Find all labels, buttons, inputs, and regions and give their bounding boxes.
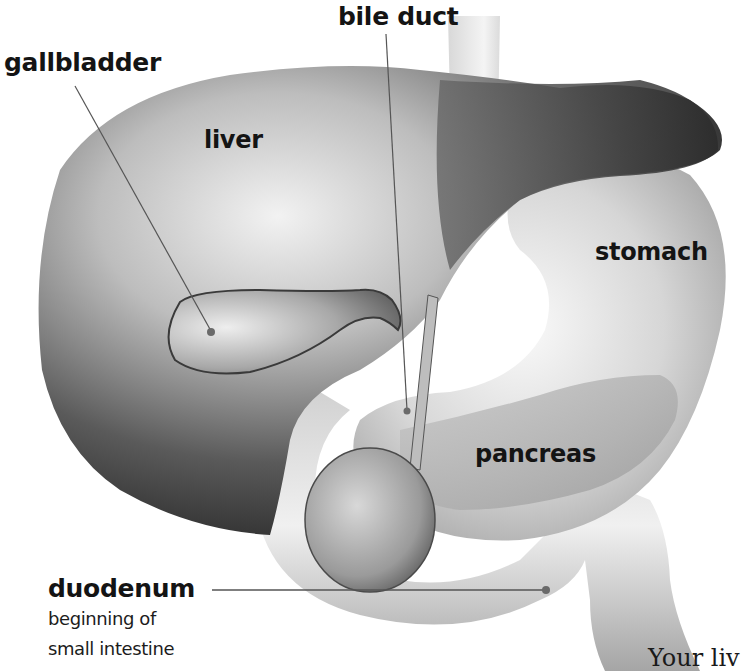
label-liver: liver [204,126,263,154]
bile-duct-leader-dot [404,408,411,415]
label-duodenum: duodenum [48,574,195,603]
label-pancreas: pancreas [475,440,596,468]
body-text-fragment: Your liv [648,644,740,671]
pancreas-head-shape [305,448,435,592]
gallbladder-leader-dot [207,328,215,336]
label-stomach: stomach [595,238,708,266]
label-bile-duct: bile duct [338,2,458,31]
duodenum-description-line2: small intestine [48,638,174,659]
label-gallbladder: gallbladder [4,48,161,77]
anatomy-illustration [0,0,750,671]
duodenum-leader-dot [542,586,550,594]
duodenum-description-line1: beginning of [48,608,156,629]
